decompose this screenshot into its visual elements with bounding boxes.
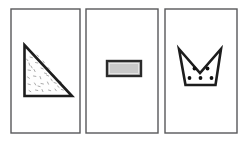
panel-2 bbox=[86, 9, 158, 133]
figure-container bbox=[0, 0, 244, 142]
panel-3 bbox=[165, 9, 237, 133]
cup-dot bbox=[193, 67, 197, 71]
three-panel-shape-figure bbox=[0, 0, 244, 142]
cup-dot bbox=[199, 76, 203, 80]
gray-rectangle-shape bbox=[107, 61, 141, 76]
cup-dot bbox=[188, 76, 192, 80]
cup-dot bbox=[206, 67, 210, 71]
cup-dot bbox=[210, 76, 214, 80]
panel-1 bbox=[11, 9, 80, 133]
